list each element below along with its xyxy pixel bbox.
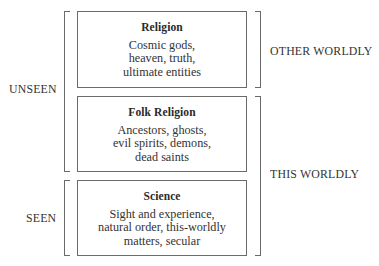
other-worldly-bracket — [255, 11, 261, 88]
religion-line: ultimate entities — [78, 66, 246, 79]
folk-religion-line: dead saints — [78, 151, 246, 164]
science-line: Sight and experience, — [78, 208, 246, 221]
religion-line: Cosmic gods, — [78, 39, 246, 52]
folk-religion-line: evil spirits, demons, — [78, 137, 246, 150]
seen-bracket — [64, 180, 70, 256]
science-description: Sight and experience, natural order, thi… — [78, 208, 246, 248]
religion-title: Religion — [78, 21, 246, 33]
religion-line: heaven, truth, — [78, 52, 246, 65]
unseen-bracket — [64, 11, 70, 172]
science-line: natural order, this-worldly — [78, 221, 246, 234]
science-line: matters, secular — [78, 235, 246, 248]
science-box: Science Sight and experience, natural or… — [77, 180, 247, 256]
religion-description: Cosmic gods, heaven, truth, ultimate ent… — [78, 39, 246, 79]
unseen-label: UNSEEN — [9, 82, 57, 97]
folk-religion-box: Folk Religion Ancestors, ghosts, evil sp… — [77, 96, 247, 172]
this-worldly-bracket — [255, 96, 261, 256]
folk-religion-description: Ancestors, ghosts, evil spirits, demons,… — [78, 124, 246, 164]
religion-box: Religion Cosmic gods, heaven, truth, ult… — [77, 11, 247, 88]
science-title: Science — [78, 190, 246, 202]
folk-religion-line: Ancestors, ghosts, — [78, 124, 246, 137]
seen-label: SEEN — [26, 211, 56, 226]
folk-religion-title: Folk Religion — [78, 106, 246, 118]
this-worldly-label: THIS WORLDLY — [270, 167, 359, 182]
other-worldly-label: OTHER WORLDLY — [270, 44, 372, 59]
